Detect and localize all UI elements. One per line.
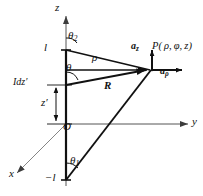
x-axis: [17, 124, 66, 173]
field-point-label: P( ρ, φ, z): [152, 41, 192, 52]
R-vector-label: R: [104, 80, 111, 91]
theta2-label: θ2: [68, 30, 77, 43]
current-element-label: Idz′: [13, 77, 27, 87]
a-z-unit-vector-label: az: [131, 41, 139, 53]
y-axis-label: y: [192, 116, 197, 127]
theta-arc: [66, 72, 78, 80]
theta1-subscript: 1: [75, 159, 79, 168]
a-rho-subscript: ρ: [165, 70, 169, 78]
z-axis-label: z: [55, 2, 59, 13]
x-axis-label: x: [9, 168, 14, 179]
line-current-cylindrical-diagram: z y x O l −l θ2 θ1 θ ρ R Idz′ z′ az aρ P…: [0, 0, 203, 196]
upper-end-label: l: [44, 42, 47, 53]
lower-end-label: −l: [45, 172, 55, 183]
diagram-canvas: [0, 0, 203, 196]
field-point-marker: [151, 69, 154, 72]
theta-label: θ: [66, 62, 71, 73]
z-prime-label: z′: [41, 97, 48, 108]
a-z-subscript: z: [136, 45, 139, 53]
ray-upper-end-to-p: [66, 50, 150, 70]
rho-label: ρ: [92, 52, 97, 63]
theta2-subscript: 2: [73, 34, 77, 43]
a-rho-unit-vector-label: aρ: [160, 66, 169, 78]
theta1-label: θ1: [70, 155, 79, 168]
origin-label: O: [63, 121, 71, 132]
